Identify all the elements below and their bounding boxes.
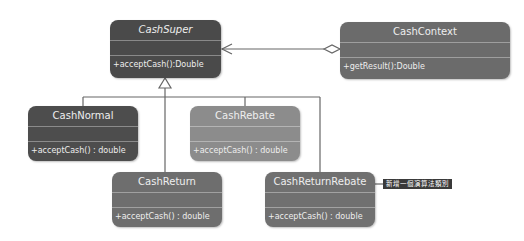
class-attributes [190, 127, 300, 142]
class-attributes [265, 193, 375, 208]
class-operation: +acceptCash() : double [190, 142, 300, 160]
class-name: CashRebate [190, 106, 300, 127]
note-label: 新增一個演算法類別 [383, 179, 452, 189]
class-name: CashNormal [28, 106, 138, 127]
class-operation: +getResult():Double [340, 58, 510, 76]
class-cashreturnrebate[interactable]: CashReturnRebate +acceptCash() : double [265, 172, 375, 227]
class-operation: +acceptCash() : double [265, 208, 375, 226]
class-name: CashReturnRebate [265, 172, 375, 193]
class-operation: +acceptCash():Double [110, 56, 221, 74]
class-cashrebate[interactable]: CashRebate +acceptCash() : double [190, 106, 300, 161]
class-name: CashSuper [110, 20, 221, 41]
class-operation: +acceptCash() : double [112, 208, 222, 226]
class-attributes [28, 127, 138, 142]
class-name: CashReturn [112, 172, 222, 193]
class-cashsuper[interactable]: CashSuper +acceptCash():Double [110, 20, 221, 78]
class-cashnormal[interactable]: CashNormal +acceptCash() : double [28, 106, 138, 161]
class-cashcontext[interactable]: CashContext +getResult():Double [340, 22, 510, 79]
class-attributes [340, 43, 510, 58]
class-cashreturn[interactable]: CashReturn +acceptCash() : double [112, 172, 222, 227]
class-operation: +acceptCash() : double [28, 142, 138, 160]
class-attributes [112, 193, 222, 208]
class-name: CashContext [340, 22, 510, 43]
class-attributes [110, 41, 221, 56]
